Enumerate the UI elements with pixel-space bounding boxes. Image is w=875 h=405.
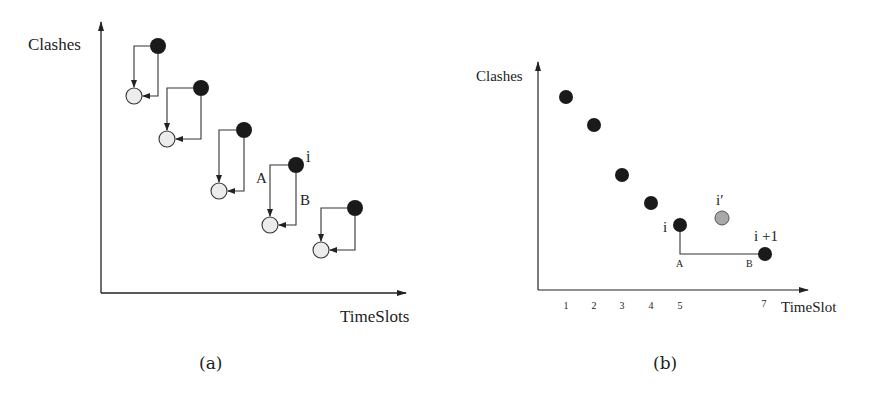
xlabel-b: TimeSlot [781,299,837,315]
path-b-arrow [176,96,201,139]
panel-b: Clashes TimeSlot 1 2 3 4 5 7 i i′ i +1 A… [476,62,837,315]
empty-node [262,217,278,233]
label-A-b: A [676,258,684,269]
xlabel-a: TimeSlots [340,307,409,326]
point-3 [615,168,629,182]
tick-5: 5 [678,300,683,311]
caption-a: (a) [199,353,222,373]
filled-node [347,200,363,216]
path-a-arrow [270,165,288,216]
label-B-b: B [746,258,753,269]
ylabel-b: Clashes [476,68,523,84]
point-2 [587,118,601,132]
path-a-arrow [167,88,193,130]
tick-2: 2 [592,300,597,311]
path-a-arrow [321,208,347,241]
filled-node [150,38,166,54]
point-i-prime [715,211,729,225]
panel-a: Clashes TimeSlots i A B [28,22,409,326]
path-A-B [680,225,765,254]
filled-node [193,80,209,96]
caption-b: (b) [653,353,677,373]
filled-node [288,157,304,173]
empty-node [313,242,329,258]
tick-1: 1 [564,300,569,311]
tick-7: 7 [762,298,767,309]
label-i-plus-1: i +1 [754,228,778,244]
label-i-prime: i′ [716,192,723,208]
point-i-plus-1 [758,247,772,261]
empty-node [159,131,175,147]
point-4 [644,196,658,210]
path-b-arrow [279,173,296,225]
filled-node [236,122,252,138]
path-a-arrow [219,130,236,182]
empty-node [126,88,142,104]
point-1 [559,90,573,104]
figure-canvas: Clashes TimeSlots i A B Clashes TimeSlot… [0,0,875,405]
x-ticks: 1 2 3 4 5 7 [564,298,767,311]
label-i-a: i [306,148,311,165]
tick-4: 4 [649,300,654,311]
point-i [673,218,687,232]
path-b-arrow [330,216,355,250]
move-pairs [126,38,363,258]
path-b-arrow [143,54,158,96]
ylabel-a: Clashes [28,35,81,54]
label-A-a: A [256,170,267,186]
label-B-a: B [300,192,310,208]
label-i-b: i [663,219,667,235]
path-b-arrow [228,138,244,191]
path-a-arrow [134,46,150,87]
tick-3: 3 [620,300,625,311]
empty-node [211,183,227,199]
